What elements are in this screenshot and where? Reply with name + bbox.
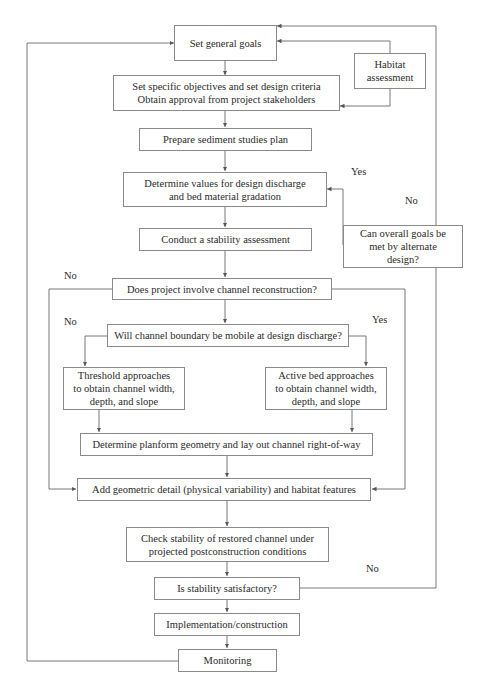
node-implementation: Implementation/construction [154, 613, 300, 636]
node-label: Set general goals [190, 37, 262, 50]
node-label: Add geometric detail (physical variabili… [92, 483, 356, 496]
node-label: Will channel boundary be mobile at desig… [114, 329, 342, 342]
node-threshold-approaches: Threshold approaches to obtain channel w… [63, 367, 185, 410]
label-alternate-yes: Yes [351, 166, 366, 177]
node-label: Implementation/construction [166, 618, 287, 631]
node-check-stability: Check stability of restored channel unde… [126, 527, 329, 562]
node-label: Conduct a stability assessment [161, 233, 290, 246]
node-label: Threshold approaches to obtain channel w… [73, 369, 174, 408]
node-label: Determine values for design discharge an… [144, 177, 305, 203]
node-monitoring: Monitoring [178, 649, 277, 672]
node-label: Is stability satisfactory? [177, 582, 277, 595]
node-sediment-plan: Prepare sediment studies plan [139, 128, 312, 151]
node-habitat-assessment: Habitat assessment [354, 53, 426, 89]
node-label: Determine planform geometry and lay out … [93, 438, 361, 451]
node-design-discharge: Determine values for design discharge an… [123, 172, 327, 207]
node-label: Can overall goals be met by alternate de… [360, 227, 446, 266]
label-satisfactory-no: No [366, 563, 379, 574]
node-mobile-boundary-decision: Will channel boundary be mobile at desig… [107, 324, 349, 347]
node-set-objectives: Set specific objectives and set design c… [113, 75, 340, 111]
node-label: Active bed approaches to obtain channel … [275, 369, 376, 408]
node-reconstruction-decision: Does project involve channel reconstruct… [112, 278, 332, 300]
label-mobile-no: No [64, 316, 77, 327]
label-mobile-yes: Yes [372, 314, 387, 325]
node-label: Habitat assessment [367, 58, 414, 84]
node-set-general-goals: Set general goals [174, 25, 277, 61]
node-label: Monitoring [204, 654, 252, 667]
node-stability-assessment: Conduct a stability assessment [139, 228, 312, 251]
node-active-bed-approaches: Active bed approaches to obtain channel … [265, 367, 387, 410]
node-label: Does project involve channel reconstruct… [127, 283, 317, 296]
node-stability-satisfactory-decision: Is stability satisfactory? [154, 577, 300, 600]
node-label: Set specific objectives and set design c… [132, 80, 320, 106]
node-geometric-detail: Add geometric detail (physical variabili… [77, 478, 371, 501]
node-alternate-design-decision: Can overall goals be met by alternate de… [343, 225, 463, 268]
label-alternate-no: No [405, 195, 418, 206]
node-label: Prepare sediment studies plan [163, 133, 288, 146]
label-reconstruction-no: No [64, 270, 77, 281]
node-label: Check stability of restored channel unde… [141, 532, 314, 558]
node-planform-geometry: Determine planform geometry and lay out … [80, 433, 373, 456]
